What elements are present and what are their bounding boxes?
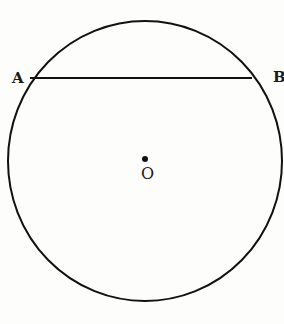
circle-diagram (0, 0, 284, 324)
point-a-label: A (12, 71, 24, 86)
center-point (142, 156, 148, 162)
diagram-canvas: A B O (0, 0, 284, 324)
center-o-label: O (141, 166, 154, 182)
point-b-label: B (273, 70, 284, 85)
